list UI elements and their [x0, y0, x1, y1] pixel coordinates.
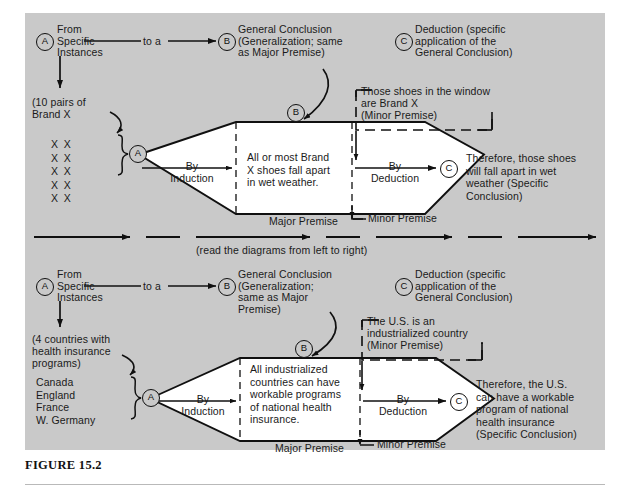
d2-evidence-items: Canada England France W. Germany	[36, 376, 95, 426]
d2-major-premise-label: Major Premise	[275, 443, 344, 455]
node-c-d2-top: C	[395, 278, 413, 296]
d1-deduction-label: Deduction (specific application of the G…	[415, 24, 513, 59]
d2-to-a-label: to a	[143, 281, 161, 293]
d2-by-induction-label: By Induction	[168, 394, 238, 417]
read-direction-note: (read the diagrams from left to right)	[196, 245, 367, 257]
d2-minor-premise-box-text: The U.S. is an industrialized country (M…	[367, 315, 468, 351]
d2-deduction-label: Deduction (specific application of the G…	[415, 269, 513, 304]
d2-conclusion-text: Therefore, the U.S. can have a workable …	[476, 378, 577, 441]
figure-root: A B C A B C A B C A B C From Specific In…	[0, 0, 622, 493]
node-b-d2-top: B	[218, 278, 236, 296]
caption-rule	[25, 484, 605, 485]
d2-minor-premise-label: Minor Premise	[377, 439, 446, 451]
d1-major-premise-label: Major Premise	[269, 216, 338, 228]
d2-general-conclusion-label: General Conclusion (Generalization; same…	[238, 269, 332, 315]
d1-minor-premise-label: Minor Premise	[368, 213, 437, 225]
figure-caption: FIGURE 15.2	[25, 458, 102, 473]
d2-evidence-note: (4 countries with health insurance progr…	[32, 333, 111, 369]
node-b-d2-body: B	[295, 340, 313, 358]
d1-conclusion-text: Therefore, those shoes will fall apart i…	[466, 152, 576, 202]
node-b-d1-body: B	[287, 104, 305, 122]
d2-by-deduction-label: By Deduction	[368, 394, 438, 417]
node-b-d1-top: B	[218, 33, 236, 51]
d1-center-major-premise-text: All or most Brand X shoes fall apart in …	[247, 151, 330, 189]
d1-by-induction-label: By Induction	[157, 161, 227, 184]
node-a-d2-top: A	[36, 278, 54, 296]
d2-center-major-premise-text: All industrialized countries can have wo…	[250, 363, 341, 426]
d1-to-a-label: to a	[143, 36, 161, 48]
d1-general-conclusion-label: General Conclusion (Generalization; same…	[238, 24, 343, 59]
node-c-d1-top: C	[395, 33, 413, 51]
d1-evidence-items: X X X X X X X X X X	[51, 138, 71, 206]
node-a-d1-top: A	[36, 33, 54, 51]
d2-from-specific-instances: From Specific Instances	[57, 269, 103, 304]
node-a-d1-body: A	[129, 145, 147, 163]
d1-from-specific-instances: From Specific Instances	[57, 24, 103, 59]
d1-by-deduction-label: By Deduction	[360, 161, 430, 184]
d1-minor-premise-box-text: Those shoes in the window are Brand X (M…	[361, 85, 490, 121]
node-c-d2-body: C	[450, 393, 468, 411]
node-a-d2-body: A	[142, 389, 160, 407]
node-c-d1-body: C	[440, 160, 458, 178]
d1-evidence-note: (10 pairs of Brand X	[32, 97, 86, 120]
